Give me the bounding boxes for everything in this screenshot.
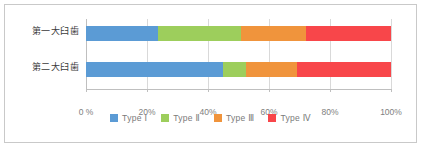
legend-label-3: Type Ⅲ [226, 113, 254, 123]
tickmark-0 [86, 89, 87, 92]
legend-item-3[interactable]: Type Ⅲ [214, 113, 254, 123]
legend-swatch-icon-3 [214, 114, 222, 122]
chart-frame: 第一大臼歯 第二大臼歯 0 %20%40%60%80%100% Type ⅠTy… [4, 4, 417, 143]
tickmark-40 [208, 89, 209, 92]
tickmark-20 [147, 89, 148, 92]
bar-segment-3-row-2[interactable] [246, 62, 297, 77]
legend-item-1[interactable]: Type Ⅰ [110, 113, 147, 123]
x-axis-line [86, 89, 391, 90]
bar-segment-4-row-1[interactable] [306, 26, 391, 41]
stacked-bar-first-molar[interactable] [86, 26, 391, 41]
bar-segment-2-row-1[interactable] [158, 26, 241, 41]
legend-label-4: Type Ⅳ [280, 113, 310, 123]
bar-segment-1-row-1[interactable] [86, 26, 158, 41]
bar-segment-3-row-1[interactable] [241, 26, 306, 41]
legend-label-2: Type Ⅱ [173, 113, 200, 123]
tickmark-100 [391, 89, 392, 92]
bar-segment-2-row-2[interactable] [223, 62, 246, 77]
category-label-first-molar: 第一大臼歯 [0, 24, 79, 37]
legend-item-4[interactable]: Type Ⅳ [268, 113, 310, 123]
bar-segment-1-row-2[interactable] [86, 62, 223, 77]
chart-legend: Type ⅠType ⅡType ⅢType Ⅳ [5, 113, 416, 123]
legend-label-1: Type Ⅰ [122, 113, 147, 123]
legend-swatch-icon-2 [161, 114, 169, 122]
category-label-second-molar: 第二大臼歯 [0, 60, 79, 73]
gridline-100 [391, 19, 392, 89]
legend-swatch-icon-4 [268, 114, 276, 122]
legend-swatch-icon-1 [110, 114, 118, 122]
legend-item-2[interactable]: Type Ⅱ [161, 113, 200, 123]
tickmark-80 [330, 89, 331, 92]
plot-area: 0 %20%40%60%80%100% [86, 19, 391, 89]
bar-segment-4-row-2[interactable] [297, 62, 391, 77]
tickmark-60 [269, 89, 270, 92]
stacked-bar-second-molar[interactable] [86, 62, 391, 77]
